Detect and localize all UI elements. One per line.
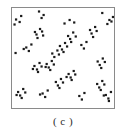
scatter-point xyxy=(53,56,55,58)
scatter-point xyxy=(15,94,17,96)
scatter-point xyxy=(100,67,102,69)
scatter-point xyxy=(97,60,99,62)
scatter-point xyxy=(75,35,77,37)
scatter-point xyxy=(33,65,35,67)
scatter-point xyxy=(90,32,92,34)
scatter-point xyxy=(112,16,114,18)
scatter-point xyxy=(110,91,112,93)
scatter-point xyxy=(108,19,110,21)
scatter-point xyxy=(100,89,102,91)
scatter-point xyxy=(53,63,55,65)
scatter-point xyxy=(92,36,94,38)
scatter-point xyxy=(67,73,69,75)
scatter-point xyxy=(81,98,83,100)
scatter-point xyxy=(104,61,106,63)
scatter-point xyxy=(35,33,37,35)
scatter-point xyxy=(89,29,91,31)
scatter-point xyxy=(106,23,108,25)
scatter-point xyxy=(58,87,60,89)
scatter-point xyxy=(103,83,105,85)
scatter-point xyxy=(70,76,72,78)
scatter-point xyxy=(69,19,71,21)
scatter-point xyxy=(20,15,22,17)
scatter-point xyxy=(34,31,36,33)
scatter-point xyxy=(40,17,42,19)
scatter-point xyxy=(49,69,51,71)
scatter-point xyxy=(62,81,64,83)
scatter-point xyxy=(60,78,62,80)
scatter-point xyxy=(83,47,85,49)
scatter-point xyxy=(103,94,105,96)
scatter-point xyxy=(17,91,19,93)
scatter-point xyxy=(42,34,44,36)
scatter-point xyxy=(102,57,104,59)
scatter-point xyxy=(39,28,41,30)
scatter-point xyxy=(14,52,16,54)
scatter-point xyxy=(63,22,65,24)
scatter-point xyxy=(96,83,98,85)
scatter-point xyxy=(56,49,58,51)
plot-frame xyxy=(11,7,115,109)
figure-caption: ( c ) xyxy=(0,114,126,128)
scatter-point xyxy=(78,95,80,97)
scatter-point xyxy=(62,51,64,53)
scatter-point xyxy=(21,97,23,99)
scatter-point xyxy=(38,10,40,12)
scatter-point xyxy=(96,30,98,32)
scatter-point xyxy=(99,64,101,66)
scatter-point xyxy=(94,26,96,28)
scatter-point xyxy=(36,68,38,70)
scatter-point xyxy=(22,88,24,90)
scatter-point xyxy=(59,45,61,47)
scatter-point xyxy=(55,81,57,83)
scatter-point xyxy=(45,66,47,68)
figure-panel: ( c ) xyxy=(0,0,126,133)
scatter-point xyxy=(72,31,74,33)
scatter-point xyxy=(42,14,44,16)
scatter-point xyxy=(39,93,41,95)
scatter-point-layer xyxy=(12,8,114,108)
scatter-point xyxy=(110,20,112,22)
scatter-point xyxy=(65,76,67,78)
scatter-point xyxy=(74,73,76,75)
scatter-point xyxy=(37,71,39,73)
scatter-point xyxy=(41,92,43,94)
scatter-point xyxy=(36,37,38,39)
scatter-point xyxy=(108,100,110,102)
scatter-point xyxy=(15,18,17,20)
scatter-point xyxy=(41,30,43,32)
scatter-point xyxy=(101,80,103,82)
scatter-point xyxy=(73,70,75,72)
scatter-point xyxy=(85,41,87,43)
scatter-point xyxy=(48,66,50,68)
scatter-point xyxy=(80,44,82,46)
scatter-point xyxy=(105,94,107,96)
scatter-point xyxy=(83,92,85,94)
scatter-point xyxy=(57,84,59,86)
scatter-point xyxy=(30,43,32,45)
scatter-point xyxy=(19,21,21,23)
scatter-point xyxy=(25,46,27,48)
scatter-point xyxy=(19,94,21,96)
scatter-point xyxy=(28,50,30,52)
scatter-point xyxy=(61,48,63,50)
scatter-point xyxy=(51,60,53,62)
scatter-point xyxy=(67,35,69,37)
scatter-point xyxy=(23,48,25,50)
scatter-point xyxy=(70,41,72,43)
scatter-point xyxy=(38,62,40,64)
scatter-point xyxy=(13,23,15,25)
scatter-point xyxy=(73,21,75,23)
scatter-point xyxy=(64,42,66,44)
scatter-point xyxy=(44,96,46,98)
scatter-point xyxy=(66,45,68,47)
scatter-point xyxy=(107,97,109,99)
scatter-point xyxy=(98,86,100,88)
scatter-point xyxy=(46,63,48,65)
scatter-point xyxy=(51,52,53,54)
scatter-point xyxy=(32,68,34,70)
scatter-point xyxy=(101,12,103,14)
scatter-point xyxy=(24,91,26,93)
scatter-point xyxy=(47,89,49,91)
scatter-point xyxy=(40,65,42,67)
